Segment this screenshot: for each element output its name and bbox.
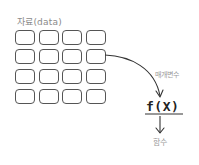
function-expression: f(X) <box>146 99 179 114</box>
data-cell <box>62 89 82 104</box>
data-cell <box>15 30 35 45</box>
data-cell <box>15 69 35 84</box>
data-cell <box>15 49 35 64</box>
parameter-arrow-curve <box>105 55 160 96</box>
data-cell <box>86 49 106 64</box>
function-label: 함수 <box>153 136 167 147</box>
data-cell <box>39 69 59 84</box>
data-cell <box>39 30 59 45</box>
data-cell <box>86 89 106 104</box>
output-arrowhead-icon <box>156 128 164 133</box>
data-cell <box>86 30 106 45</box>
data-label: 자료(data) <box>17 15 62 28</box>
data-cell <box>39 49 59 64</box>
data-cell <box>62 49 82 64</box>
parameter-arrowhead-icon <box>156 90 163 97</box>
data-cell <box>86 69 106 84</box>
data-cell <box>62 69 82 84</box>
data-cell <box>62 30 82 45</box>
parameter-label: 매개변수 <box>155 69 179 79</box>
data-cell <box>15 89 35 104</box>
data-cell <box>39 89 59 104</box>
data-grid <box>15 30 107 105</box>
